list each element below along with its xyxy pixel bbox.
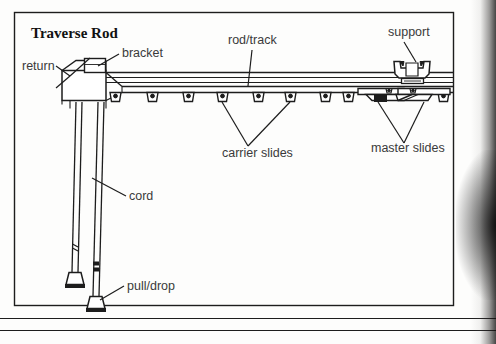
carrier-slide <box>147 93 158 102</box>
label-support: support <box>388 25 430 39</box>
carrier-slide <box>343 93 354 102</box>
diagram-page: Traverse Rod <box>0 0 496 344</box>
carrier-slide <box>320 93 331 102</box>
traverse-rod-diagram: Traverse Rod <box>0 0 496 344</box>
page-rules <box>0 319 496 331</box>
page-title: Traverse Rod <box>31 25 118 41</box>
carrier-slide <box>183 93 194 102</box>
label-pull-drop: pull/drop <box>127 279 175 293</box>
master-slides-group <box>358 89 450 102</box>
label-master-slides: master slides <box>371 141 445 155</box>
label-bracket: bracket <box>122 46 164 60</box>
leader-lines <box>56 42 424 300</box>
label-cord: cord <box>129 189 153 203</box>
cords-group <box>72 102 104 296</box>
carrier-slide <box>110 93 121 102</box>
label-rod-track: rod/track <box>228 33 277 47</box>
support-clamp <box>394 62 430 84</box>
cord-line <box>72 102 82 272</box>
label-return: return <box>22 59 55 73</box>
label-carrier-slides: carrier slides <box>222 146 293 160</box>
carrier-slide <box>253 93 264 102</box>
cord-line <box>93 102 104 296</box>
carrier-slide <box>285 93 296 102</box>
carrier-slide <box>217 93 228 102</box>
pull-drop-weight <box>66 273 85 288</box>
